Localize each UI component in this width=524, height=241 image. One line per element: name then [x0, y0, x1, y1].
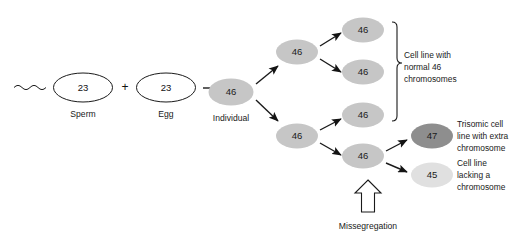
monosomic-annotation-line-1: Cell line	[457, 158, 487, 168]
diagram-canvas: 23 Sperm + 23 Egg 46 Individual 46	[0, 0, 524, 241]
individual-group: 46 Individual	[209, 79, 254, 124]
missegregation-arrow-monosomy-icon	[386, 163, 407, 172]
lower-branch-parent-count: 46	[292, 130, 303, 141]
trisomic-annotation-line-2: line with extra	[457, 131, 509, 141]
individual-label: Individual	[213, 113, 249, 123]
upper-branch-parent-count: 46	[292, 46, 303, 57]
trisomic-chromosome-count: 47	[427, 130, 438, 141]
branch-arrow-upper-icon	[256, 66, 278, 84]
trisomic-cell-line-annotation: Trisomic cell line with extra chromosome	[457, 119, 509, 153]
normal-cell-line-annotation: Cell line with normal 46 chromosomes	[404, 50, 457, 84]
trisomic-annotation-line-1: Trisomic cell	[457, 119, 503, 129]
upper-branch-child-1-count: 46	[358, 24, 369, 35]
lower-branch-child-1-count: 46	[358, 109, 369, 120]
individual-chromosome-count: 46	[226, 86, 237, 97]
plus-symbol: +	[121, 80, 128, 94]
upper-branch-child-2-group: 46	[342, 60, 384, 85]
upper-branch-parent-group: 46	[276, 40, 318, 65]
lower-branch-arrow-1-icon	[320, 119, 341, 130]
sperm-group: 23 Sperm	[14, 73, 113, 119]
egg-chromosome-count: 23	[161, 82, 172, 93]
lower-branch-child-2-count: 46	[358, 150, 369, 161]
trisomic-cell-group: 47	[411, 124, 453, 149]
lower-branch-child-1-group: 46	[342, 103, 384, 128]
normal-annotation-line-3: chromosomes	[404, 74, 457, 84]
normal-cell-line-brace	[392, 22, 402, 121]
upper-branch-arrow-1-icon	[320, 33, 341, 46]
upper-branch-child-2-count: 46	[358, 66, 369, 77]
normal-annotation-line-1: Cell line with	[404, 50, 451, 60]
monosomic-annotation-line-2: lacking a	[457, 170, 490, 180]
monosomic-cell-group: 45	[411, 163, 453, 188]
upper-branch-child-1-group: 46	[342, 18, 384, 43]
normal-annotation-line-2: normal 46	[404, 62, 442, 72]
sperm-tail-icon	[14, 85, 46, 89]
lower-branch-arrow-2-icon	[320, 143, 341, 155]
monosomic-chromosome-count: 45	[427, 169, 438, 180]
upper-branch-arrow-2-icon	[320, 59, 341, 72]
missegregation-block-arrow-icon	[355, 180, 381, 212]
missegregation-arrow-trisomy-icon	[386, 140, 407, 151]
trisomic-annotation-line-3: chromosome	[457, 143, 506, 153]
lower-branch-parent-group: 46	[276, 124, 318, 149]
sperm-label: Sperm	[70, 109, 95, 119]
missegregation-label: Missegregation	[339, 221, 397, 231]
sperm-chromosome-count: 23	[78, 82, 89, 93]
branch-arrow-lower-icon	[256, 100, 278, 121]
monosomic-annotation-line-3: chromosome	[457, 182, 506, 192]
monosomic-cell-line-annotation: Cell line lacking a chromosome	[457, 158, 506, 192]
chromosome-segregation-diagram: 23 Sperm + 23 Egg 46 Individual 46	[0, 0, 524, 241]
lower-branch-child-2-group: 46	[342, 144, 384, 169]
egg-label: Egg	[158, 109, 174, 119]
egg-group: 23 Egg	[137, 73, 196, 119]
